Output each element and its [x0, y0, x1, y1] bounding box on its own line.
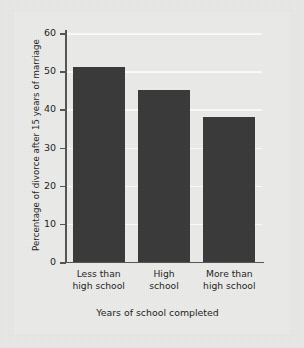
- y-axis-tick-mark: [60, 262, 66, 264]
- y-axis-tick-labels: 6050403020100: [32, 0, 56, 348]
- y-axis-tick-mark: [60, 71, 66, 73]
- y-axis-tick-mark: [60, 33, 66, 35]
- x-axis-category-label-line: high school: [189, 280, 269, 292]
- x-axis-line: [60, 262, 264, 264]
- y-axis-tick-label: 50: [34, 65, 56, 76]
- y-axis-line: [65, 30, 67, 263]
- x-axis-category-label-line: High: [153, 268, 174, 279]
- y-axis-tick-label: 10: [34, 218, 56, 229]
- bar: [138, 90, 190, 262]
- plot-area: [66, 33, 262, 262]
- y-axis-tick-mark: [60, 224, 66, 226]
- bar: [203, 117, 255, 262]
- y-axis-tick-mark: [60, 109, 66, 111]
- x-axis-category-label: More thanhigh school: [189, 268, 269, 291]
- y-axis-tick-mark: [60, 148, 66, 150]
- y-axis-tick-label: 40: [34, 103, 56, 114]
- x-axis-category-label-line: More than: [206, 268, 253, 279]
- x-axis-category-label-line: Less than: [77, 268, 121, 279]
- y-axis-tick-mark: [60, 186, 66, 188]
- x-axis-title: Years of school completed: [40, 307, 275, 318]
- y-axis-tick-label: 0: [34, 256, 56, 267]
- chart-figure: Percentage of divorce after 15 years of …: [0, 0, 304, 348]
- y-axis-tick-label: 30: [34, 142, 56, 153]
- y-axis-tick-label: 60: [34, 27, 56, 38]
- bar: [73, 67, 125, 262]
- gridline: [66, 33, 262, 35]
- y-axis-tick-label: 20: [34, 180, 56, 191]
